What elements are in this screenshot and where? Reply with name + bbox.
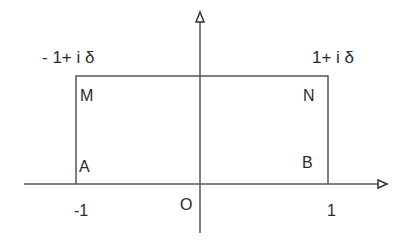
real-axis-arrow-icon bbox=[378, 180, 387, 188]
origin-label: O bbox=[180, 196, 192, 213]
contour-diagram: - 1+ i δ 1+ i δ M N A B -1 O 1 bbox=[0, 0, 408, 244]
rectangle-contour bbox=[76, 76, 328, 184]
top-right-value-label: 1+ i δ bbox=[312, 48, 354, 67]
tick-label-minus-one: -1 bbox=[74, 202, 88, 219]
top-left-value-label: - 1+ i δ bbox=[42, 48, 94, 67]
imaginary-axis-arrow-icon bbox=[196, 12, 204, 22]
vertex-label-b: B bbox=[302, 154, 313, 171]
tick-label-one: 1 bbox=[327, 202, 336, 219]
vertex-label-a: A bbox=[79, 158, 90, 175]
vertex-label-m: M bbox=[80, 87, 93, 104]
vertex-label-n: N bbox=[303, 87, 315, 104]
